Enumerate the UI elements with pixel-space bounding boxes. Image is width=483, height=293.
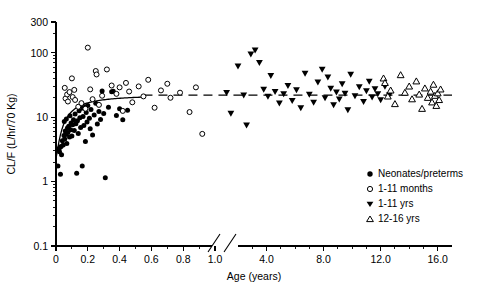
data-point xyxy=(123,80,128,85)
x-tick-label-0.6: 0.6 xyxy=(144,253,159,265)
data-point xyxy=(64,141,69,146)
y-tick-label-0.1: 0.1 xyxy=(33,240,48,252)
y-tick-label-10: 10 xyxy=(36,111,48,123)
data-point xyxy=(387,87,394,93)
data-point xyxy=(95,122,100,127)
legend-item-1-11-yrs: 1-11 yrs xyxy=(362,196,480,211)
axis-break-slash-2 xyxy=(224,234,236,252)
data-point xyxy=(256,60,263,66)
plot-area: 3001001010.100.20.40.60.81.04.08.012.016… xyxy=(0,0,483,293)
data-point xyxy=(80,163,85,168)
data-point xyxy=(280,91,287,97)
data-point xyxy=(58,172,63,177)
data-point xyxy=(374,91,381,97)
data-point xyxy=(302,71,309,77)
data-point xyxy=(100,88,105,93)
x-tick-label-16.0: 16.0 xyxy=(428,253,449,265)
data-point xyxy=(352,93,359,99)
x-tick-label-4.0: 4.0 xyxy=(259,253,274,265)
data-point xyxy=(339,81,346,87)
data-point xyxy=(62,85,67,90)
data-point xyxy=(421,85,428,91)
x-tick-label-0.2: 0.2 xyxy=(80,253,95,265)
data-point xyxy=(98,117,103,122)
data-point xyxy=(193,85,198,90)
data-point xyxy=(297,105,304,111)
data-point xyxy=(83,139,88,144)
data-point xyxy=(363,88,370,94)
series-12-16-yrs xyxy=(380,72,444,112)
data-point xyxy=(114,113,119,118)
x-tick-label-0: 0 xyxy=(53,253,59,265)
data-point xyxy=(73,97,78,102)
open-circle-icon xyxy=(362,183,378,195)
data-point xyxy=(260,87,267,93)
data-point xyxy=(392,101,399,107)
data-point xyxy=(272,89,279,95)
x-tick-label-8.0: 8.0 xyxy=(316,253,331,265)
data-point xyxy=(59,152,64,157)
data-point xyxy=(103,175,108,180)
data-point xyxy=(200,131,205,136)
data-point xyxy=(88,126,93,131)
data-point xyxy=(178,90,183,95)
data-point xyxy=(235,64,242,70)
data-point xyxy=(88,87,93,92)
open-triangle-up-icon xyxy=(362,213,378,225)
data-point xyxy=(327,86,334,92)
data-point xyxy=(330,102,337,108)
data-point xyxy=(85,45,90,50)
data-point xyxy=(127,89,132,94)
data-point xyxy=(293,87,300,93)
data-point xyxy=(265,94,272,100)
x-axis-title: Age (years) xyxy=(227,270,281,282)
legend-label-neonates-preterms: Neonates/preterms xyxy=(378,168,463,179)
data-point xyxy=(73,111,78,116)
data-point xyxy=(324,74,331,80)
data-point xyxy=(81,114,86,119)
data-point xyxy=(55,163,60,168)
data-point xyxy=(360,99,367,105)
filled-circle-icon xyxy=(362,168,378,180)
data-point xyxy=(437,86,444,92)
y-tick-label-100: 100 xyxy=(30,47,48,59)
data-point xyxy=(92,113,97,118)
data-point xyxy=(285,83,292,89)
data-point xyxy=(322,95,329,101)
y-tick-label-300: 300 xyxy=(30,16,48,28)
x-tick-label-1.0: 1.0 xyxy=(208,253,223,265)
data-point xyxy=(356,84,363,90)
filled-triangle-down-icon xyxy=(362,198,378,210)
data-point xyxy=(397,72,404,78)
data-point xyxy=(430,81,437,87)
data-point xyxy=(79,101,84,106)
data-point xyxy=(227,111,234,117)
data-point xyxy=(289,98,296,104)
y-axis-title: CL/F (L/hr/70 Kg) xyxy=(5,93,17,174)
data-point xyxy=(152,105,157,110)
data-point xyxy=(419,105,426,111)
data-point xyxy=(69,134,74,139)
data-point xyxy=(158,88,163,93)
data-point xyxy=(120,108,125,113)
data-point xyxy=(416,91,423,97)
data-point xyxy=(247,52,254,58)
legend-label-1-11-months: 1-11 months xyxy=(378,183,433,194)
data-point xyxy=(88,107,93,112)
data-point xyxy=(104,67,109,72)
data-point xyxy=(74,171,79,176)
legend-label-1-11-yrs: 1-11 yrs xyxy=(378,198,413,209)
series-1-11-months xyxy=(62,45,205,136)
data-point xyxy=(136,84,141,89)
data-point xyxy=(336,97,343,103)
series-1-11-yrs xyxy=(223,47,392,128)
data-point xyxy=(109,83,114,88)
data-point xyxy=(310,100,317,106)
data-point xyxy=(106,105,111,110)
y-tick-label-1: 1 xyxy=(42,175,48,187)
data-point xyxy=(72,87,77,92)
data-point xyxy=(65,99,70,104)
data-point xyxy=(117,85,122,90)
chart-legend: Neonates/preterms 1-11 months 1-11 yrs 1… xyxy=(362,166,480,226)
data-point xyxy=(94,72,99,77)
